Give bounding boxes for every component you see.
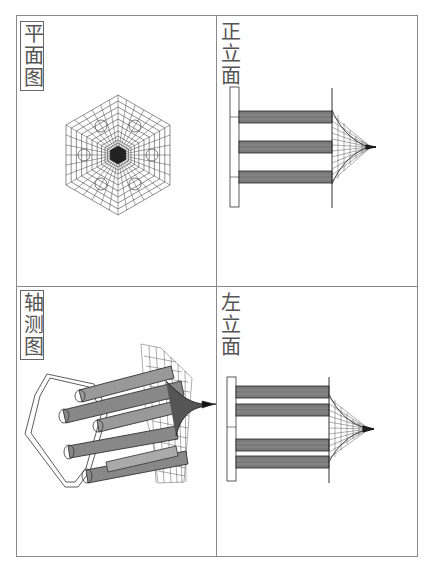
panel-front-elevation: 正立面: [216, 15, 418, 286]
panel-left-elevation: 左立面: [216, 286, 418, 557]
panel-axonometric: 轴测图: [16, 286, 216, 557]
left-elevation-drawing: [216, 286, 418, 557]
front-elevation-drawing: [216, 15, 418, 286]
axonometric-drawing: [16, 286, 216, 557]
plan-hexagon-mesh-drawing: [16, 15, 216, 286]
panel-plan: 平面图: [16, 15, 216, 286]
